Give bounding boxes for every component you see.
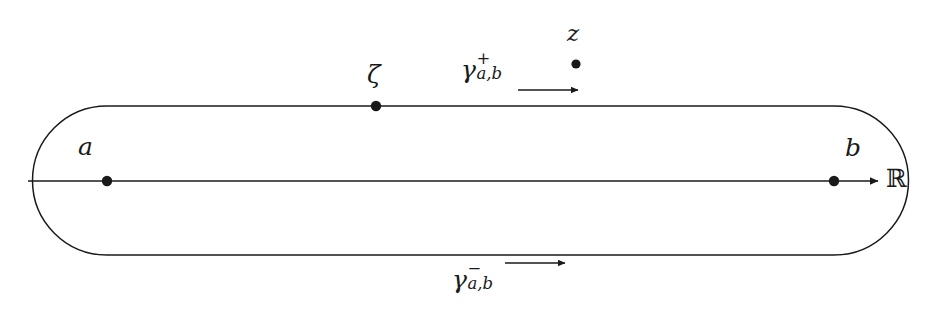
point-a-label: a	[78, 134, 93, 159]
point-b-marker	[829, 176, 839, 186]
point-z-marker	[571, 59, 580, 68]
point-zeta-label: ζ	[367, 62, 381, 87]
real-axis-label: ℝ	[886, 166, 907, 191]
lower-path-label: γ − a,b	[452, 265, 467, 294]
upper-path-subscript: a,b	[476, 64, 502, 83]
point-zeta-marker	[371, 101, 381, 111]
upper-path-gamma: γ + a,b	[461, 55, 476, 84]
point-a-marker	[102, 176, 112, 186]
lower-path-subscript: a,b	[467, 274, 493, 293]
point-z-label: z	[567, 22, 579, 45]
upper-path-label: γ + a,b	[461, 55, 476, 84]
lower-path-gamma: γ − a,b	[452, 265, 467, 294]
point-b-label: b	[845, 135, 861, 160]
contour-diagram-figure: a b ζ z ℝ γ + a,b γ − a,b	[0, 0, 942, 309]
